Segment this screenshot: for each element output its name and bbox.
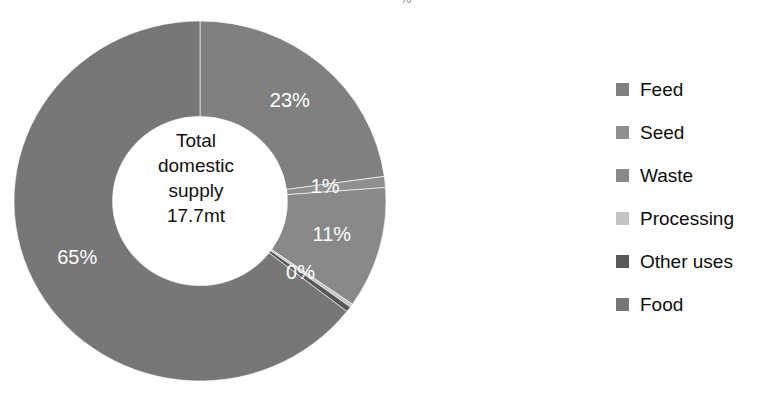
- slice-percent-label: 11%: [313, 223, 352, 245]
- legend-swatch-icon: [616, 83, 629, 96]
- center-line-3: supply: [130, 178, 262, 203]
- legend-swatch-icon: [616, 126, 629, 139]
- legend-swatch-icon: [616, 255, 629, 268]
- legend-item-label: Waste: [640, 166, 693, 185]
- legend-item-label: Food: [640, 295, 683, 314]
- cropped-title-fragment: % ­: [400, 0, 460, 5]
- legend-swatch-icon: [616, 169, 629, 182]
- slice-percent-label: 0%: [286, 261, 315, 283]
- legend-item-seed[interactable]: Seed: [616, 111, 766, 154]
- center-line-1: Total: [130, 128, 262, 153]
- legend-item-label: Processing: [640, 209, 734, 228]
- slice-percent-label: 1%: [311, 175, 340, 197]
- slice-percent-label: 65%: [57, 246, 97, 268]
- legend-item-processing[interactable]: Processing: [616, 197, 766, 240]
- donut-center-text: Total domestic supply 17.7mt: [130, 128, 262, 228]
- legend-item-label: Feed: [640, 80, 683, 99]
- legend-item-label: Seed: [640, 123, 684, 142]
- center-line-4: 17.7mt: [130, 203, 262, 228]
- legend-item-food[interactable]: Food: [616, 283, 766, 326]
- center-line-2: domestic: [130, 153, 262, 178]
- slice-percent-label: 23%: [270, 89, 310, 111]
- legend-item-feed[interactable]: Feed: [616, 68, 766, 111]
- legend-item-waste[interactable]: Waste: [616, 154, 766, 197]
- chart-legend: FeedSeedWasteProcessingOther usesFood: [616, 68, 766, 326]
- legend-swatch-icon: [616, 298, 629, 311]
- legend-swatch-icon: [616, 212, 629, 225]
- chart-page: % ­ 23%1%11%0%65% Total domestic supply …: [0, 0, 766, 397]
- legend-item-other-uses[interactable]: Other uses: [616, 240, 766, 283]
- legend-item-label: Other uses: [640, 252, 733, 271]
